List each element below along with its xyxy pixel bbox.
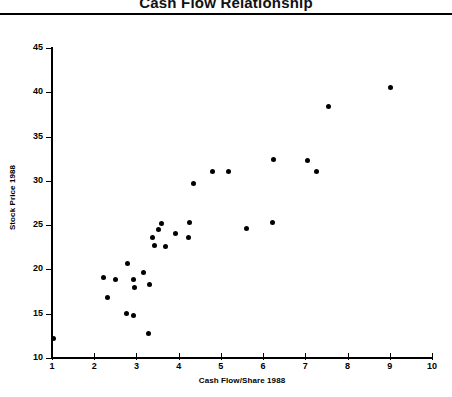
y-tick-label: 25 — [22, 220, 43, 230]
y-tick-label-text: 10 — [22, 353, 43, 362]
data-point — [326, 104, 331, 109]
x-tick-mark — [432, 353, 433, 360]
y-tick-label: 10 — [22, 353, 43, 363]
y-tick-label: 40 — [22, 87, 43, 97]
x-tick-label: 9 — [380, 362, 400, 373]
data-point — [131, 277, 136, 282]
data-point — [101, 275, 106, 280]
data-point — [141, 270, 146, 275]
data-point — [147, 282, 152, 287]
x-tick-mark — [221, 353, 222, 360]
data-point — [244, 226, 249, 231]
data-point — [271, 157, 276, 162]
y-tick-label-text: 35 — [22, 132, 43, 141]
data-point — [187, 220, 192, 225]
x-tick-label-text: 7 — [295, 362, 315, 371]
y-tick-label-text: 40 — [22, 87, 43, 96]
x-tick-label: 1 — [42, 362, 62, 373]
scatter-plot: 1015202530354045 12345678910 Stock Price… — [0, 0, 452, 397]
y-tick-mark — [46, 92, 53, 93]
y-tick-mark — [46, 225, 53, 226]
data-point — [132, 285, 137, 290]
x-tick-label: 6 — [253, 362, 273, 373]
y-tick-label: 45 — [22, 43, 43, 53]
x-tick-label: 4 — [169, 362, 189, 373]
data-point — [173, 231, 178, 236]
y-tick-mark — [46, 48, 53, 49]
y-tick-label: 15 — [22, 309, 43, 319]
x-tick-mark — [52, 353, 53, 360]
x-tick-label-text: 5 — [211, 362, 231, 371]
x-tick-label: 8 — [338, 362, 358, 373]
x-tick-mark — [94, 353, 95, 360]
y-tick-label: 35 — [22, 132, 43, 142]
y-tick-label-text: 15 — [22, 309, 43, 318]
x-axis-title: Cash Flow/Share 1988 — [51, 376, 433, 385]
x-tick-mark — [348, 353, 349, 360]
data-point — [152, 243, 157, 248]
data-point — [270, 220, 275, 225]
data-point — [113, 277, 118, 282]
y-tick-label-text: 25 — [22, 220, 43, 229]
y-tick-label-text: 30 — [22, 176, 43, 185]
x-tick-label: 3 — [126, 362, 146, 373]
y-tick-mark — [46, 269, 53, 270]
data-point — [186, 235, 191, 240]
data-point — [305, 158, 310, 163]
x-tick-mark — [179, 353, 180, 360]
data-point — [156, 227, 161, 232]
x-tick-label-text: 6 — [253, 362, 273, 371]
x-tick-label-text: 1 — [42, 362, 62, 371]
y-tick-label: 20 — [22, 264, 43, 274]
y-tick-label: 30 — [22, 176, 43, 186]
x-tick-label-text: 3 — [126, 362, 146, 371]
data-point — [163, 244, 168, 249]
data-point — [226, 169, 231, 174]
y-tick-label-text: 20 — [22, 264, 43, 273]
data-point — [146, 331, 151, 336]
x-tick-label-text: 10 — [422, 362, 442, 371]
x-tick-mark — [390, 353, 391, 360]
x-tick-label: 10 — [422, 362, 442, 373]
y-tick-mark — [46, 137, 53, 138]
x-tick-label-text: 2 — [84, 362, 104, 371]
x-tick-label: 5 — [211, 362, 231, 373]
data-point — [125, 261, 130, 266]
y-tick-label-text: 45 — [22, 43, 43, 52]
x-tick-label: 7 — [295, 362, 315, 373]
x-tick-label-text: 8 — [338, 362, 358, 371]
y-axis-title: Stock Price 1988 — [8, 153, 17, 243]
x-axis-line — [51, 357, 433, 359]
x-tick-label: 2 — [84, 362, 104, 373]
data-point — [191, 181, 196, 186]
data-point — [314, 169, 319, 174]
y-tick-mark — [46, 181, 53, 182]
data-point — [210, 169, 215, 174]
x-tick-label-text: 9 — [380, 362, 400, 371]
data-point — [159, 221, 164, 226]
x-tick-mark — [136, 353, 137, 360]
data-point — [388, 85, 393, 90]
data-point — [131, 313, 136, 318]
data-point — [124, 311, 129, 316]
data-point — [150, 235, 155, 240]
x-tick-mark — [263, 353, 264, 360]
x-tick-label-text: 4 — [169, 362, 189, 371]
x-tick-mark — [305, 353, 306, 360]
data-point — [105, 295, 110, 300]
y-tick-mark — [46, 314, 53, 315]
y-axis-line — [51, 47, 53, 359]
data-point — [51, 336, 56, 341]
